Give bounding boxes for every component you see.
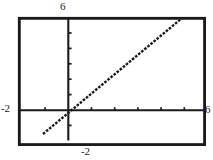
clip-mask-bottom: [0, 145, 213, 160]
plot-canvas: [0, 0, 213, 160]
x-axis-max-label: 6: [205, 104, 210, 115]
y-axis-min-label: -2: [81, 146, 90, 157]
plot-frame: [19, 18, 205, 145]
graph-figure: 6 6 -2 -2: [0, 0, 213, 160]
y-axis-max-label: 6: [60, 1, 65, 12]
clip-mask-left: [0, 0, 19, 160]
x-axis-min-label: -2: [1, 103, 10, 114]
clip-mask-right: [205, 0, 213, 160]
clip-mask-top: [0, 0, 213, 18]
